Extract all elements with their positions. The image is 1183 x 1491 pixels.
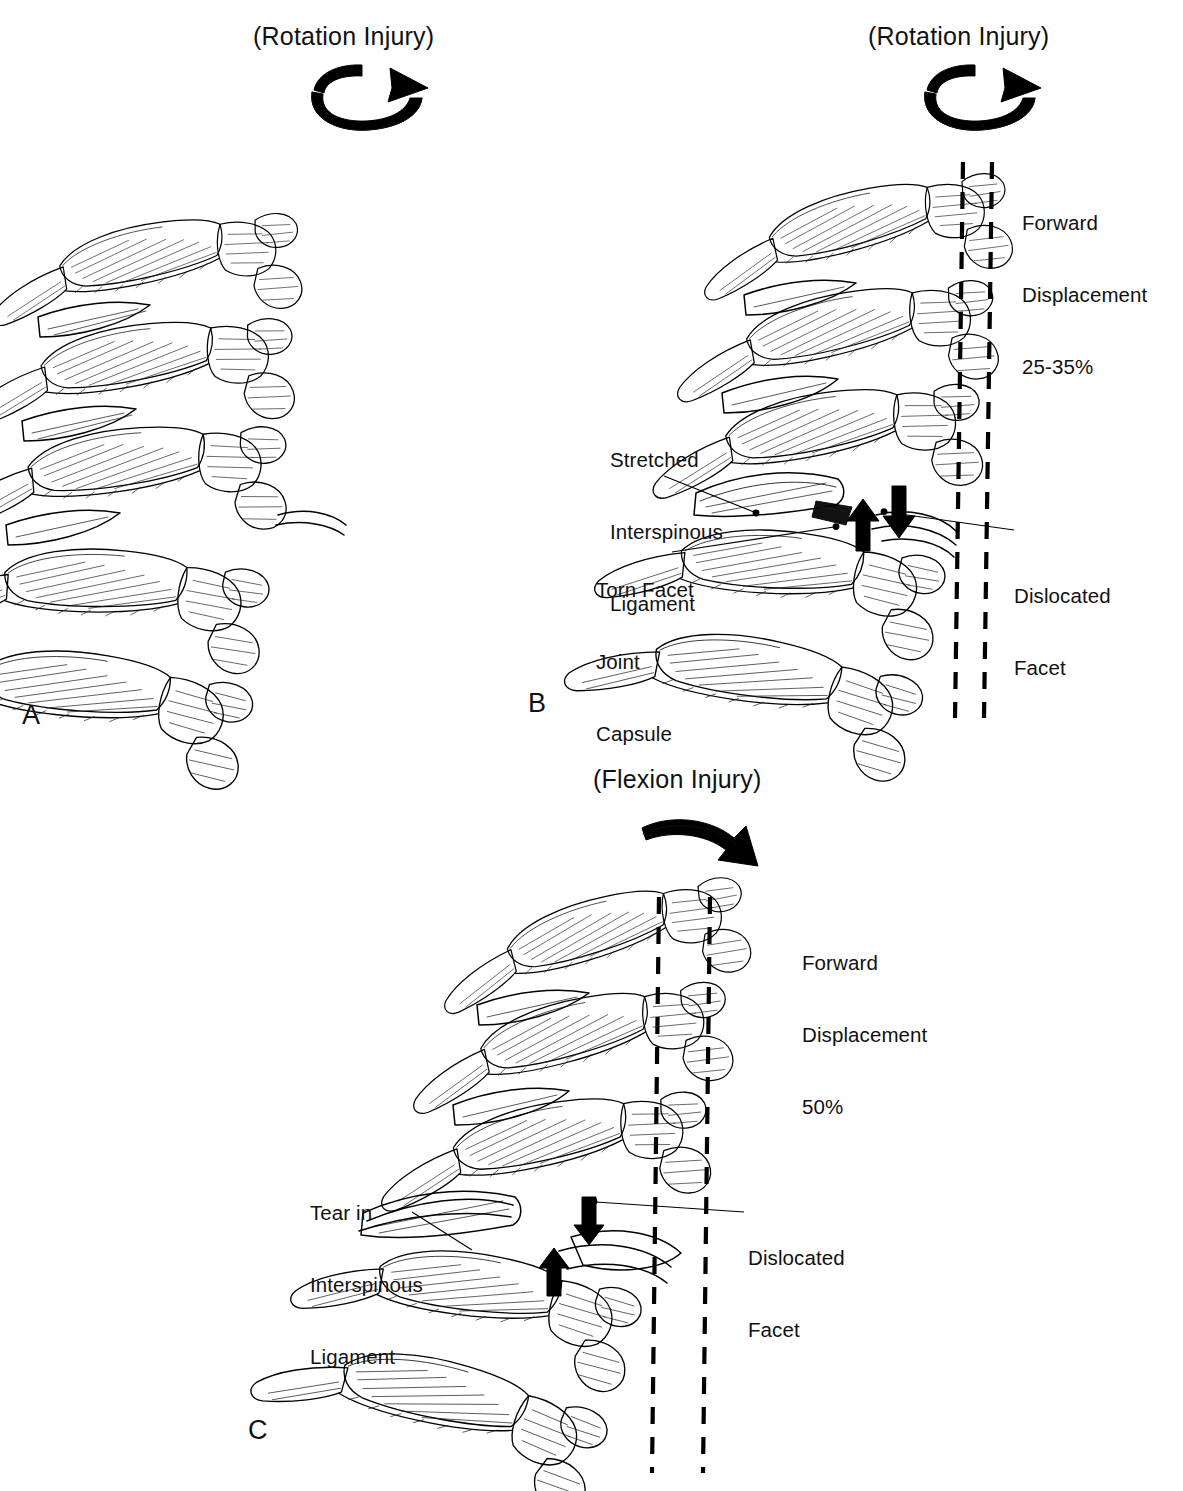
label-line: 25-35% [1022, 355, 1147, 379]
label-line: Ligament [310, 1345, 423, 1369]
label-line: Displacement [802, 1023, 927, 1047]
rotation-arrow-icon [905, 62, 1055, 132]
rotation-arrow-icon [292, 62, 442, 132]
panel-c-title: (Flexion Injury) [593, 765, 762, 794]
label-line: Displacement [1022, 283, 1147, 307]
panel-c-letter: C [248, 1415, 268, 1446]
label-line: Facet [748, 1318, 845, 1342]
flexion-arrow-icon [640, 812, 770, 874]
panel-a-letter: A [22, 700, 40, 731]
label-forward-displacement: Forward Displacement 50% [802, 903, 927, 1167]
panel-c-leader-lines [300, 1150, 820, 1290]
label-line: Joint [596, 650, 694, 674]
figure-canvas: (Rotation Injury) A (Rotati [0, 0, 1183, 1491]
label-line: Facet [1014, 656, 1111, 680]
label-line: 50% [802, 1095, 927, 1119]
panel-b-leader-lines [580, 390, 1080, 610]
panel-b-letter: B [528, 688, 546, 719]
label-line: Forward [802, 951, 927, 975]
label-line: Capsule [596, 722, 694, 746]
label-forward-displacement: Forward Displacement 25-35% [1022, 163, 1147, 427]
panel-b-title: (Rotation Injury) [868, 22, 1049, 51]
panel-a-spine-illustration [28, 225, 468, 725]
label-line: Forward [1022, 211, 1147, 235]
panel-a-title: (Rotation Injury) [253, 22, 434, 51]
